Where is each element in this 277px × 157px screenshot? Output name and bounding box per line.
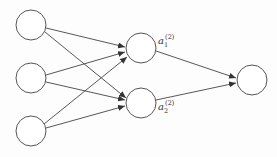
output-layer bbox=[237, 65, 267, 95]
edge-h2-o1 bbox=[156, 83, 236, 100]
edge-i3-h2 bbox=[46, 106, 125, 128]
edge-i1-h2 bbox=[45, 32, 126, 98]
edge-h1-o1 bbox=[156, 51, 236, 78]
edge-i2-h1 bbox=[46, 52, 125, 75]
edges-hidden-output bbox=[156, 51, 236, 100]
hidden-layer bbox=[126, 33, 156, 118]
input-node-2 bbox=[16, 63, 46, 93]
input-layer bbox=[16, 10, 46, 146]
input-node-3 bbox=[16, 116, 46, 146]
neural-network-diagram: a1(2) a2(2) bbox=[0, 0, 277, 157]
output-node bbox=[237, 65, 267, 95]
hidden-node-2 bbox=[126, 88, 156, 118]
edge-i1-h1 bbox=[46, 28, 125, 47]
hidden-node-1 bbox=[126, 33, 156, 63]
edge-i3-h1 bbox=[44, 57, 127, 124]
edges-input-hidden bbox=[44, 28, 127, 128]
input-node-1 bbox=[16, 10, 46, 40]
hidden-node-2-label: a2(2) bbox=[158, 99, 175, 115]
hidden-node-1-label: a1(2) bbox=[158, 33, 175, 49]
